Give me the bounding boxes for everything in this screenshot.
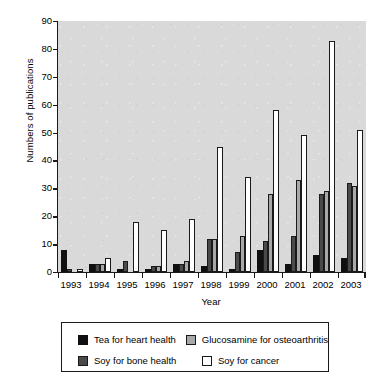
y-axis-tick-mark bbox=[53, 133, 58, 134]
legend-swatch-white-icon bbox=[202, 356, 212, 366]
legend-swatch-black-icon bbox=[78, 335, 88, 345]
x-axis-tick-label: 2001 bbox=[281, 280, 309, 294]
bar-group bbox=[170, 21, 198, 272]
x-axis-tick-label: 1993 bbox=[57, 280, 85, 294]
bar-groups bbox=[58, 21, 366, 272]
legend-swatch-light-gray-icon bbox=[186, 335, 196, 345]
y-axis-tick-mark bbox=[53, 77, 58, 78]
bar-group bbox=[338, 21, 366, 272]
y-axis-tick-label: 40 bbox=[30, 155, 52, 165]
x-axis-tick-label: 2000 bbox=[253, 280, 281, 294]
y-axis-tick-mark bbox=[53, 49, 58, 50]
legend-item-tea-for-heart-health: Tea for heart health bbox=[78, 335, 186, 345]
x-axis-tick-label: 2002 bbox=[309, 280, 337, 294]
y-axis-tick-label: 30 bbox=[30, 183, 52, 193]
bar bbox=[329, 41, 334, 272]
bar bbox=[189, 219, 194, 272]
x-axis-tick-label: 1999 bbox=[225, 280, 253, 294]
y-axis-tick-mark bbox=[53, 188, 58, 189]
y-axis-tick-label: 50 bbox=[30, 128, 52, 138]
y-axis-tick-mark bbox=[53, 21, 58, 22]
x-axis-tick-mark bbox=[226, 272, 227, 278]
publications-bar-chart: Numbers of publications 0102030405060708… bbox=[0, 0, 389, 392]
legend-label: Glucosamine for osteoarthritis bbox=[202, 335, 328, 345]
bar bbox=[123, 261, 128, 272]
y-axis-tick-label: 80 bbox=[30, 44, 52, 54]
plot-area: 0102030405060708090 bbox=[57, 21, 366, 273]
y-axis-tick-label: 20 bbox=[30, 211, 52, 221]
x-axis-tick-mark bbox=[282, 272, 283, 278]
bar bbox=[245, 177, 250, 272]
bar-group bbox=[226, 21, 254, 272]
x-axis-labels: 1993199419951996199719981999200020012002… bbox=[57, 280, 365, 294]
y-axis-tick-label: 70 bbox=[30, 72, 52, 82]
bar-group bbox=[198, 21, 226, 272]
legend-item-glucosamine-for-osteoarthritis: Glucosamine for osteoarthritis bbox=[186, 335, 328, 345]
y-axis-tick-label: 10 bbox=[30, 239, 52, 249]
bar-group bbox=[142, 21, 170, 272]
x-axis-tick-mark bbox=[198, 272, 199, 278]
bar bbox=[273, 110, 278, 272]
bar-group bbox=[282, 21, 310, 272]
bar bbox=[133, 222, 138, 272]
x-axis-tick-mark bbox=[254, 272, 255, 278]
legend-label: Tea for heart health bbox=[94, 335, 176, 345]
x-axis-tick-label: 1994 bbox=[85, 280, 113, 294]
x-axis-title: Year bbox=[57, 296, 365, 307]
legend-row: Soy for bone health Soy for cancer bbox=[78, 350, 328, 371]
x-axis-tick-label: 1998 bbox=[197, 280, 225, 294]
x-axis-tick-label: 2003 bbox=[337, 280, 365, 294]
x-axis-tick-mark bbox=[170, 272, 171, 278]
legend-item-soy-for-bone-health: Soy for bone health bbox=[78, 356, 202, 366]
chart-legend: Tea for heart health Glucosamine for ost… bbox=[61, 322, 329, 372]
bar bbox=[357, 130, 362, 272]
bar-group bbox=[254, 21, 282, 272]
y-axis-tick-mark bbox=[53, 216, 58, 217]
legend-swatch-dark-gray-icon bbox=[78, 356, 88, 366]
bar-group bbox=[58, 21, 86, 272]
y-axis-tick-label: 90 bbox=[30, 16, 52, 26]
x-axis-tick-mark bbox=[114, 272, 115, 278]
legend-row: Tea for heart health Glucosamine for ost… bbox=[78, 329, 328, 350]
bar bbox=[105, 258, 110, 272]
bar bbox=[77, 269, 82, 272]
x-axis-tick-mark bbox=[310, 272, 311, 278]
legend-item-soy-for-cancer: Soy for cancer bbox=[202, 356, 279, 366]
y-axis-tick-label: 60 bbox=[30, 100, 52, 110]
x-axis-tick-mark bbox=[58, 272, 59, 278]
x-axis-tick-mark bbox=[142, 272, 143, 278]
bar-group bbox=[86, 21, 114, 272]
bar bbox=[301, 135, 306, 272]
bar-group bbox=[310, 21, 338, 272]
legend-label: Soy for cancer bbox=[218, 356, 279, 366]
x-axis-tick-label: 1997 bbox=[169, 280, 197, 294]
bar-group bbox=[114, 21, 142, 272]
bar bbox=[217, 147, 222, 273]
bar bbox=[67, 269, 72, 272]
x-axis-tick-label: 1996 bbox=[141, 280, 169, 294]
x-axis-tick-label: 1995 bbox=[113, 280, 141, 294]
y-axis-tick-label: 0 bbox=[30, 267, 52, 277]
y-axis-tick-mark bbox=[53, 105, 58, 106]
x-axis-tick-mark bbox=[86, 272, 87, 278]
x-axis-tick-mark bbox=[338, 272, 339, 278]
bar bbox=[161, 230, 166, 272]
x-axis-tick-mark bbox=[364, 272, 365, 278]
y-axis-tick-mark bbox=[53, 244, 58, 245]
y-axis-tick-mark bbox=[53, 160, 58, 161]
legend-label: Soy for bone health bbox=[94, 356, 176, 366]
